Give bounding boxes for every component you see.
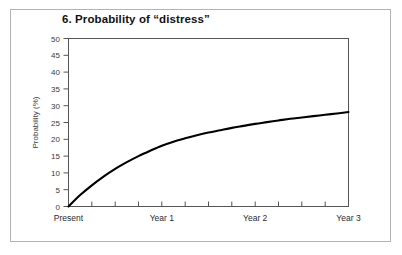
plot-area-rect bbox=[69, 39, 349, 207]
x-tick-label-present: Present bbox=[54, 213, 84, 223]
y-tick-label: 15 bbox=[51, 152, 60, 161]
y-tick-label: 5 bbox=[56, 186, 61, 195]
y-tick-label: 35 bbox=[51, 85, 60, 94]
y-tick-label: 0 bbox=[56, 203, 61, 212]
y-tick-label: 50 bbox=[51, 35, 60, 44]
y-tick-label: 30 bbox=[51, 102, 60, 111]
data-series-line bbox=[69, 112, 349, 206]
plot-frame bbox=[69, 39, 349, 207]
y-tick-label: 40 bbox=[51, 68, 60, 77]
x-axis-ticks bbox=[92, 202, 325, 207]
y-tick-label: 20 bbox=[51, 135, 60, 144]
x-tick-label-year-1: Year 1 bbox=[150, 213, 175, 223]
figure-container: 6. Probability of “distress” 50 45 40 35 bbox=[0, 0, 402, 255]
x-tick-label-year-2: Year 2 bbox=[243, 213, 268, 223]
y-tick-label: 10 bbox=[51, 169, 60, 178]
y-tick-labels: 50 45 40 35 30 25 20 15 10 5 0 bbox=[51, 35, 60, 212]
x-tick-label-year-3: Year 3 bbox=[336, 213, 361, 223]
chart-plot: 50 45 40 35 30 25 20 15 10 5 0 Probabili… bbox=[0, 0, 402, 255]
y-tick-label: 25 bbox=[51, 119, 60, 128]
y-axis-ticks bbox=[64, 39, 69, 207]
y-tick-label: 45 bbox=[51, 51, 60, 60]
x-tick-labels: Present Year 1 Year 2 Year 3 bbox=[54, 213, 361, 223]
y-axis-title: Probability (%) bbox=[31, 96, 40, 148]
